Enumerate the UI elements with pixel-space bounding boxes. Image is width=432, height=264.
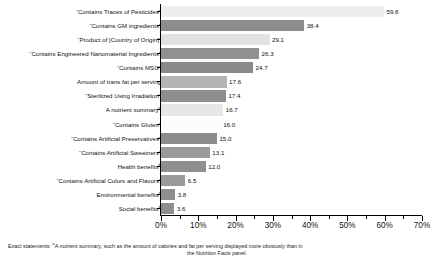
bar (161, 76, 227, 87)
x-axis-tick-label: 70% (414, 221, 430, 230)
bar-value-label: 17.4 (228, 88, 240, 103)
x-axis-minor-tick (292, 216, 293, 219)
bar-row: “Sterilized Using Irradiation”17.4 (0, 88, 432, 103)
y-axis-tick (157, 166, 160, 167)
bar-row: “Contains Engineered Nanomaterial Ingred… (0, 46, 432, 61)
bar-value-label: 29.1 (272, 32, 284, 47)
bar-category-label: “Contains Artificial Colors and Flavors” (57, 173, 161, 188)
bar (161, 20, 304, 31)
bar-row: Amount of trans fat per serving17.6 (0, 74, 432, 89)
bar (161, 203, 174, 214)
bar-category-label: “Contains Artificial Preservatives” (71, 131, 161, 146)
x-axis-tick-label: 50% (339, 221, 355, 230)
bar-row: A nutrient summarya16.7 (0, 102, 432, 117)
x-axis-minor-tick (217, 216, 218, 219)
bar-value-label: 16.7 (226, 102, 238, 117)
bar (161, 175, 185, 186)
x-axis-minor-tick (403, 216, 404, 219)
bar-value-label: 17.6 (229, 74, 241, 89)
x-axis-tick-labels: 0%10%20%30%40%50%60%70% (0, 221, 432, 233)
bar-chart: “Contains Traces of Pesticides”59.8“Cont… (0, 0, 432, 264)
bar-category-label: “Contains Traces of Pesticides” (76, 4, 161, 19)
bar (161, 34, 270, 45)
bar-category-label: Environmental benefitsc (96, 187, 161, 202)
bar-value-label: 26.3 (262, 46, 274, 61)
bar (161, 6, 384, 17)
y-axis-tick (157, 152, 160, 153)
bar (161, 90, 226, 101)
bar-category-label: “Contains GM ingredients” (89, 18, 161, 33)
x-axis-tick-label: 60% (377, 221, 393, 230)
x-axis-minor-tick (366, 216, 367, 219)
bar-value-label: 38.4 (307, 18, 319, 33)
bar-value-label: 16.0 (223, 117, 235, 132)
bar-row: “Contains Gluten”16.0 (0, 117, 432, 132)
x-axis-tick-label: 0% (155, 221, 167, 230)
y-axis-tick (157, 124, 160, 125)
bar (161, 133, 217, 144)
y-axis-tick (157, 208, 160, 209)
bar-value-label: 3.8 (178, 187, 187, 202)
chart-footnote: Exact statements: aA nutrient summary, s… (8, 243, 426, 258)
bar-row: “Contains Artificial Colors and Flavors”… (0, 173, 432, 188)
y-axis-tick (157, 109, 160, 110)
y-axis-tick (157, 180, 160, 181)
x-axis-minor-tick (329, 216, 330, 219)
y-axis-tick (157, 39, 160, 40)
bar-value-label: 3.6 (177, 201, 186, 216)
bar-row: Environmental benefitsc3.8 (0, 187, 432, 202)
bar-value-label: 24.7 (256, 60, 268, 75)
footnote-lead: Exact statements: (8, 243, 52, 249)
bar-category-label: “Contains Gluten” (113, 117, 161, 132)
x-axis-tick-label: 10% (190, 221, 206, 230)
bar-category-label: Social benefitsd (119, 201, 161, 216)
bar-row: “Contains MSG”24.7 (0, 60, 432, 75)
bar (161, 119, 221, 130)
bar-row: “Contains GM ingredients”38.4 (0, 18, 432, 33)
bar-category-label: “Contains MSG” (117, 60, 161, 75)
bar-value-label: 6.5 (188, 173, 197, 188)
y-axis-tick (157, 138, 160, 139)
x-axis-minor-tick (254, 216, 255, 219)
bar (161, 161, 206, 172)
y-axis-tick (157, 53, 160, 54)
y-axis-tick (157, 81, 160, 82)
bar-row: “Contains Traces of Pesticides”59.8 (0, 4, 432, 19)
y-axis-tick (157, 67, 160, 68)
bar-category-label: “Contains Engineered Nanomaterial Ingred… (29, 46, 161, 61)
x-axis-tick-label: 30% (265, 221, 281, 230)
bar-row: Health benefitsb12.0 (0, 159, 432, 174)
bar (161, 147, 210, 158)
bar-row: “Contains Artificial Sweetners”13.1 (0, 145, 432, 160)
bar-category-label: “Contains Artificial Sweetners” (79, 145, 161, 160)
footnote-line-2: the Nutrition Facts panel. (8, 250, 426, 257)
y-axis-tick (157, 11, 160, 12)
y-axis-tick (157, 95, 160, 96)
footnote-text-1: A nutrient summary, such as the amount o… (55, 243, 303, 249)
x-axis-tick-label: 20% (227, 221, 243, 230)
bar-row: Social benefitsd3.6 (0, 201, 432, 216)
x-axis-tick-label: 40% (302, 221, 318, 230)
y-axis-tick (157, 25, 160, 26)
bar-value-label: 59.8 (386, 4, 398, 19)
bar-category-label: A nutrient summarya (106, 102, 161, 117)
bar-row: “Contains Artificial Preservatives”15.0 (0, 131, 432, 146)
bar-category-label: “Product of [Country of Origin]” (77, 32, 161, 47)
bar (161, 104, 223, 115)
footnote-line-1: Exact statements: aA nutrient summary, s… (8, 243, 426, 250)
bar-rows: “Contains Traces of Pesticides”59.8“Cont… (0, 4, 432, 215)
x-axis-minor-tick (180, 216, 181, 219)
bar-row: “Product of [Country of Origin]”29.1 (0, 32, 432, 47)
bar-value-label: 12.0 (208, 159, 220, 174)
bar-category-label: Health benefitsb (118, 159, 161, 174)
y-axis-tick (157, 194, 160, 195)
bar-category-label: Amount of trans fat per serving (77, 74, 161, 89)
bar (161, 189, 175, 200)
bar-value-label: 13.1 (212, 145, 224, 160)
bar-value-label: 15.0 (219, 131, 231, 146)
bar (161, 48, 259, 59)
bar (161, 62, 253, 73)
bar-category-label: “Sterilized Using Irradiation” (85, 88, 161, 103)
